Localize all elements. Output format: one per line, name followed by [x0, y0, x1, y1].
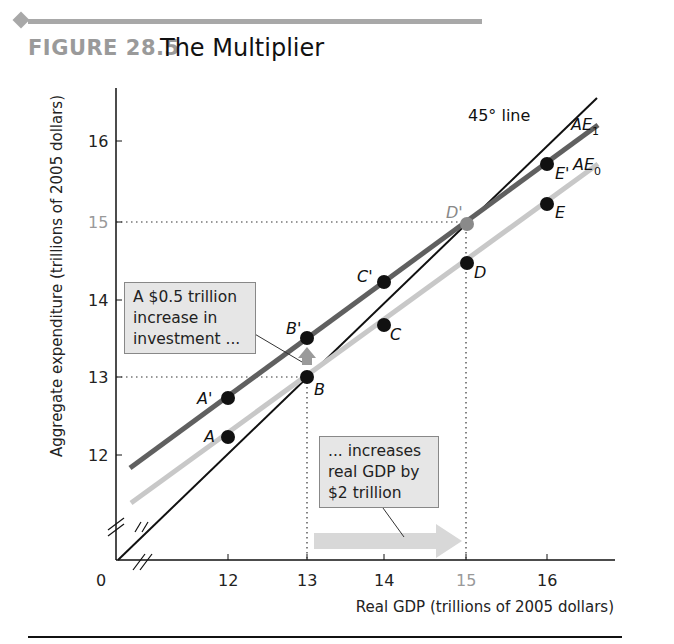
- point-a: [221, 430, 235, 444]
- label-d-prime: D': [446, 203, 463, 222]
- y-tick-12: 12: [88, 446, 108, 465]
- x-ticks: [228, 554, 547, 560]
- x-tick-14: 14: [374, 571, 394, 590]
- y-tick-14: 14: [88, 291, 108, 310]
- point-e: [540, 197, 554, 211]
- x-tick-13: 13: [297, 571, 317, 590]
- label-c-prime: C': [357, 267, 373, 286]
- origin-label: 0: [96, 571, 106, 590]
- x-tick-16: 16: [537, 571, 557, 590]
- multiplier-chart: A' A B' B C' C D' D E' E 45° line AE1 AE…: [0, 0, 674, 644]
- label-d: D: [474, 263, 486, 282]
- y-tick-16: 16: [88, 132, 108, 151]
- label-b-prime: B': [286, 319, 301, 338]
- x-tick-12: 12: [218, 571, 238, 590]
- callout-leader-gdp: [383, 508, 404, 537]
- y-tick-15: 15: [88, 213, 108, 232]
- y-axis-title: Aggregate expenditure (trillions of 2005…: [48, 95, 66, 457]
- point-e-prime: [540, 157, 554, 171]
- x-tick-15: 15: [456, 571, 476, 590]
- y-ticks: [116, 141, 122, 455]
- x-axis-title: Real GDP (trillions of 2005 dollars): [356, 598, 614, 616]
- point-b: [300, 370, 314, 384]
- gdp-increase-arrow: [314, 524, 462, 558]
- label-b: B: [314, 380, 325, 399]
- label-45-line: 45° line: [468, 106, 530, 125]
- point-c: [377, 318, 391, 332]
- point-a-prime: [221, 391, 235, 405]
- y-tick-13: 13: [88, 368, 108, 387]
- callout-investment: A $0.5 trillion increase in investment .…: [124, 282, 256, 354]
- reference-lines: [116, 222, 466, 560]
- callout-gdp: ... increases real GDP by $2 trillion: [319, 436, 439, 508]
- point-d: [460, 256, 474, 270]
- label-a: A: [203, 427, 215, 446]
- point-b-prime: [300, 331, 314, 345]
- label-e-prime: E': [555, 164, 570, 183]
- bottom-rule: [28, 636, 622, 638]
- label-c: C: [390, 325, 402, 344]
- label-a-prime: A': [196, 389, 212, 408]
- axis-break-marks: [108, 518, 152, 570]
- point-c-prime: [377, 275, 391, 289]
- investment-increase-arrow: [298, 347, 316, 365]
- label-e: E: [555, 203, 566, 222]
